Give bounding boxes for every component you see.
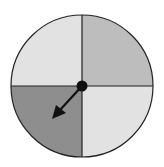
- section-bottom-right: [82, 86, 153, 157]
- spinner-diagram: [0, 0, 164, 167]
- section-top-right: [82, 15, 153, 86]
- section-top-left: [11, 15, 82, 86]
- pivot-icon: [77, 81, 88, 92]
